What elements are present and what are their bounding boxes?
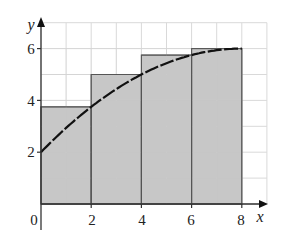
y-tick-label-2: 2: [27, 144, 35, 160]
riemann-sum-chart: 0 2 4 6 8 2 4 6 x y: [0, 0, 285, 243]
x-tick-label-4: 4: [138, 212, 146, 228]
y-axis-arrow-icon: [37, 17, 45, 27]
y-tick-label-6: 6: [27, 41, 35, 57]
origin-label: 0: [30, 212, 38, 228]
x-tick-label-8: 8: [237, 212, 245, 228]
y-tick-label-4: 4: [27, 93, 35, 109]
x-tick-label-2: 2: [88, 212, 96, 228]
x-tick-label-6: 6: [187, 212, 195, 228]
x-axis-label: x: [255, 208, 263, 225]
rectangles: [41, 49, 242, 204]
y-axis-label: y: [25, 16, 35, 34]
